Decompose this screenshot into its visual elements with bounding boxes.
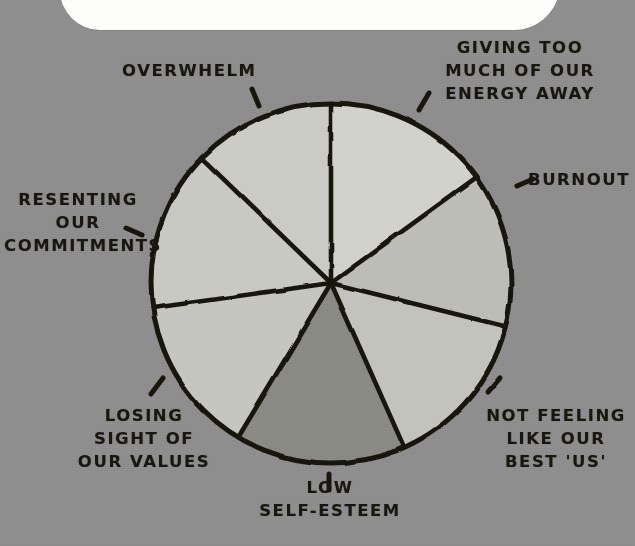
label-overwhelm: OVERWHELM — [122, 59, 292, 82]
label-resenting: RESENTING OUR COMMITMENTS — [4, 188, 152, 257]
tick-overwhelm — [252, 89, 259, 106]
label-not-best-us: NOT FEELING LIKE OUR BEST 'US' — [480, 404, 632, 473]
tick-not-best-us — [488, 378, 500, 392]
tick-giving-energy-away — [419, 93, 429, 110]
label-low-self-esteem: LOW SELF-ESTEEM — [244, 476, 416, 522]
label-losing-values: LOSING SIGHT OF OUR VALUES — [62, 404, 226, 473]
label-giving-energy-away: GIVING TOO MUCH OF OUR ENERGY AWAY — [430, 36, 610, 105]
pie-chart-page: DA GIVING TOO MUCH OF — [0, 0, 635, 546]
label-burnout: BURNOUT — [528, 168, 633, 191]
tick-losing-values — [151, 378, 163, 394]
